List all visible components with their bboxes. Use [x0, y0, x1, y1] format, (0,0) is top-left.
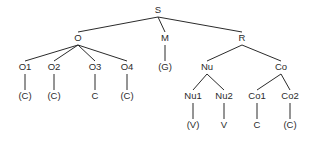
- tree-node-c5: C: [254, 119, 261, 130]
- tree-edge: [78, 45, 127, 61]
- tree-node-v1: (V): [187, 119, 200, 130]
- tree-edge: [242, 45, 281, 61]
- tree-edge: [281, 74, 290, 90]
- tree-node-o: O: [74, 32, 81, 43]
- tree-node-v2: V: [221, 119, 228, 130]
- tree-node-m: M: [161, 32, 169, 43]
- tree-node-o2: O2: [48, 61, 61, 72]
- tree-node-co1: Co1: [248, 90, 265, 101]
- tree-edge: [78, 17, 158, 32]
- syllable-structure-diagram: SOMRO1O2O3O4(G)NuCo(C)(C)C(C)Nu1Nu2Co1Co…: [0, 0, 327, 141]
- tree-node-c6: (C): [283, 119, 296, 130]
- tree-edge: [193, 74, 207, 90]
- tree-edge: [158, 17, 165, 32]
- tree-edge: [54, 45, 78, 61]
- tree-node-o4: O4: [121, 61, 134, 72]
- tree-edge: [25, 45, 78, 61]
- tree-node-s: S: [155, 4, 161, 15]
- tree-node-co2: Co2: [281, 90, 298, 101]
- tree-node-g: (G): [158, 61, 172, 72]
- tree-node-o3: O3: [89, 61, 102, 72]
- tree-node-c4: (C): [120, 90, 133, 101]
- tree-node-nu: Nu: [201, 61, 213, 72]
- tree-node-o1: O1: [19, 61, 32, 72]
- tree-node-r: R: [239, 32, 246, 43]
- tree-edge: [207, 45, 242, 61]
- tree-node-c2: (C): [47, 90, 60, 101]
- tree-edge: [257, 74, 281, 90]
- tree-svg-canvas: SOMRO1O2O3O4(G)NuCo(C)(C)C(C)Nu1Nu2Co1Co…: [0, 0, 327, 141]
- tree-node-nu2: Nu2: [215, 90, 232, 101]
- tree-node-co: Co: [275, 61, 287, 72]
- tree-node-nu1: Nu1: [184, 90, 201, 101]
- tree-edge: [158, 17, 242, 32]
- tree-node-c1: (C): [18, 90, 31, 101]
- tree-node-c3: C: [92, 90, 99, 101]
- tree-edge: [207, 74, 224, 90]
